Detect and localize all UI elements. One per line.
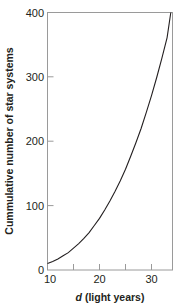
- y-tick-label-200: 200: [26, 135, 44, 147]
- x-axis-title-units: (light years): [82, 291, 144, 303]
- chart-background: [0, 0, 188, 308]
- chart-figure: 400 300 200 100 0 10 20 30 d (light year…: [0, 0, 188, 308]
- cumulative-star-systems-chart: 400 300 200 100 0 10 20 30 d (light year…: [0, 0, 188, 308]
- y-axis-title: Cummulative number of star systems: [3, 47, 15, 234]
- y-tick-label-100: 100: [26, 200, 44, 212]
- y-tick-label-300: 300: [26, 71, 44, 83]
- x-tick-label-20: 20: [93, 273, 105, 285]
- x-axis-title: d (light years): [76, 291, 145, 303]
- x-tick-label-30: 30: [145, 273, 157, 285]
- x-tick-label-10: 10: [44, 273, 56, 285]
- y-tick-label-400: 400: [26, 7, 44, 19]
